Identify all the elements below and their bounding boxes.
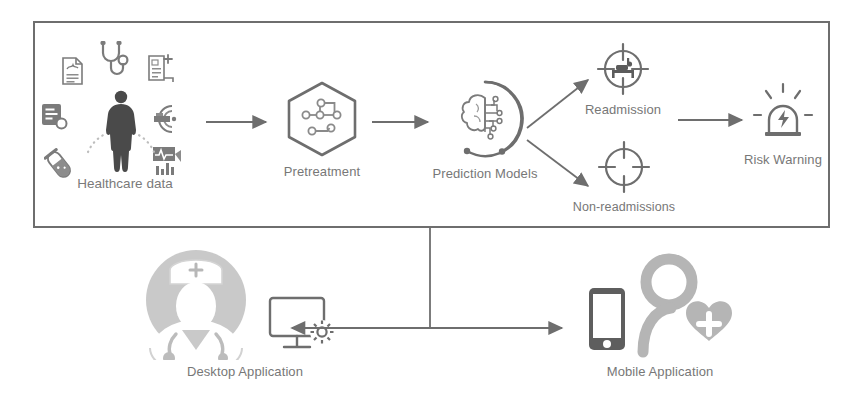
hexagon-nodes-icon: [281, 78, 363, 160]
healthcare-data-cluster: [40, 40, 210, 195]
figure-title: Healthcare readmission prediction system…: [0, 21, 1, 22]
mobile-application-icons: [565, 252, 755, 360]
crosshair-hospital-bed-icon: [594, 40, 652, 98]
human-body-silhouette-icon: [82, 78, 160, 182]
readmission-label: Readmission: [585, 102, 661, 117]
pretreatment-label: Pretreatment: [284, 164, 360, 179]
crosshair-empty-icon: [595, 138, 653, 196]
smartphone-icon: [589, 288, 625, 350]
node-mobile-application: Mobile Application: [560, 252, 760, 379]
stethoscope-icon: [98, 40, 132, 80]
node-risk-warning: Risk Warning: [735, 82, 831, 167]
node-non-readmissions: Non-readmissions: [568, 138, 680, 215]
node-readmission: Readmission: [576, 40, 670, 117]
desktop-application-icons: [130, 248, 360, 360]
desktop-monitor-gear-icon: [270, 298, 334, 347]
nurse-avatar-icon: [146, 250, 246, 360]
prediction-models-label: Prediction Models: [432, 166, 537, 181]
patient-heart-plus-icon: [643, 259, 732, 352]
node-prediction-models: Prediction Models: [427, 76, 543, 181]
node-desktop-application: Desktop Application: [120, 248, 370, 379]
node-pretreatment: Pretreatment: [272, 78, 372, 179]
clipboard-report-icon: [40, 102, 70, 132]
desktop-application-label: Desktop Application: [187, 364, 303, 379]
figure-canvas: Healthcare data P: [0, 0, 858, 397]
risk-warning-label: Risk Warning: [744, 152, 822, 167]
alarm-siren-icon: [750, 82, 816, 148]
mobile-application-label: Mobile Application: [607, 364, 714, 379]
non-readmissions-label: Non-readmissions: [573, 200, 675, 215]
healthcare-data-label: Healthcare data: [40, 176, 210, 191]
brain-circuit-icon: [442, 76, 528, 162]
